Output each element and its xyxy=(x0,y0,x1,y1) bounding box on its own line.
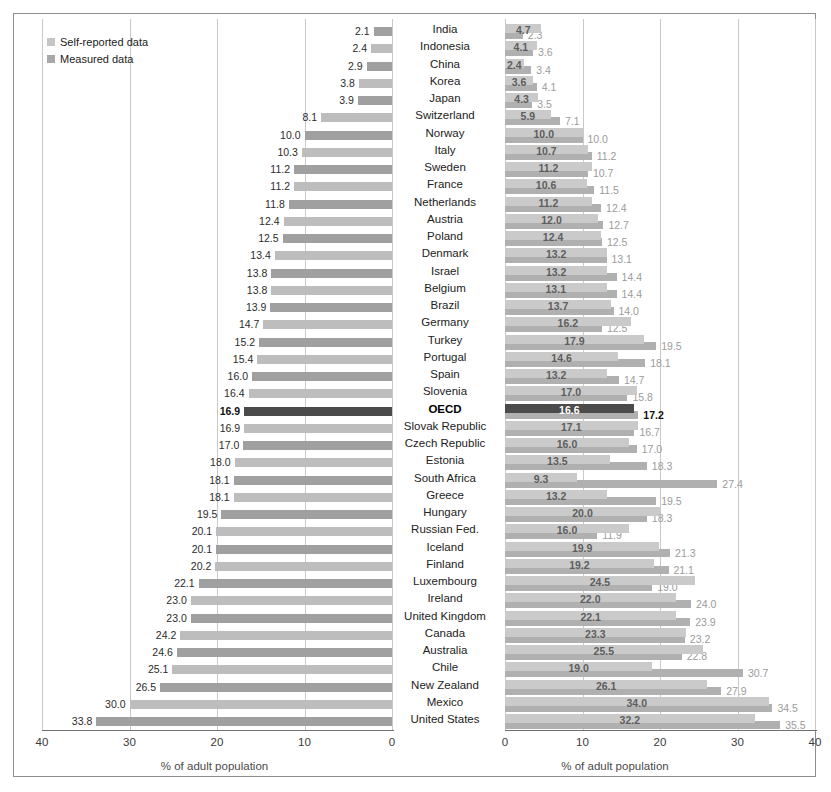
right-females-value-label: 3.6 xyxy=(506,77,532,88)
right-axis-title: % of adult population xyxy=(415,760,815,772)
left-chart-row: 13.8 xyxy=(14,265,415,284)
left-bar xyxy=(234,493,392,502)
left-chart-row: 18.1 xyxy=(14,472,415,491)
left-chart-row: 18.0 xyxy=(14,454,415,473)
right-females-value-label: 9.3 xyxy=(528,474,554,485)
right-females-value-label: 26.1 xyxy=(593,681,619,692)
left-bar xyxy=(289,200,392,209)
country-label: Japan xyxy=(385,89,505,108)
left-bar-value-label: 24.2 xyxy=(150,630,176,641)
left-bar-value-label: 20.1 xyxy=(186,526,212,537)
left-axis-ticks: 403020100 xyxy=(14,736,415,752)
left-bar-value-label: 12.4 xyxy=(254,216,280,227)
left-chart-row: 15.4 xyxy=(14,351,415,370)
left-bar-value-label: 16.9 xyxy=(214,406,240,417)
left-bar-value-label: 15.4 xyxy=(227,354,253,365)
right-females-value-label: 12.0 xyxy=(539,215,565,226)
left-chart-row: 17.0 xyxy=(14,437,415,456)
right-males-value-label: 35.5 xyxy=(785,720,805,731)
country-label: Slovak Republic xyxy=(385,417,505,436)
right-females-value-label: 32.2 xyxy=(617,715,643,726)
right-females-value-label: 25.5 xyxy=(591,646,617,657)
country-label: France xyxy=(385,175,505,194)
left-chart-row: 14.7 xyxy=(14,316,415,335)
left-chart-row: 12.5 xyxy=(14,230,415,249)
left-bar-value-label: 22.1 xyxy=(169,578,195,589)
left-chart-row: 16.0 xyxy=(14,368,415,387)
left-chart-row: 16.4 xyxy=(14,385,415,404)
country-label: Belgium xyxy=(385,279,505,298)
country-label: United Kingdom xyxy=(385,607,505,626)
left-chart-row: 10.0 xyxy=(14,127,415,146)
left-axis-tick: 0 xyxy=(389,736,395,748)
left-bar-value-label: 13.8 xyxy=(241,268,267,279)
left-bar-value-label: 16.4 xyxy=(219,388,245,399)
right-females-value-label: 11.2 xyxy=(535,163,561,174)
left-chart-row: 23.0 xyxy=(14,610,415,629)
left-chart-row: 8.1 xyxy=(14,109,415,128)
left-chart-row: 12.4 xyxy=(14,213,415,232)
country-label: Germany xyxy=(385,313,505,332)
left-bar-value-label: 16.0 xyxy=(222,371,248,382)
left-bar-value-label: 30.0 xyxy=(100,699,126,710)
legend-label-self-reported: Self-reported data xyxy=(60,36,148,48)
left-bar xyxy=(160,683,392,692)
left-bar xyxy=(96,717,392,726)
left-bar xyxy=(215,562,392,571)
left-bar-value-label: 15.2 xyxy=(229,337,255,348)
right-females-value-label: 13.1 xyxy=(543,284,569,295)
right-females-value-label: 4.3 xyxy=(509,94,535,105)
left-bar xyxy=(130,700,393,709)
left-bar xyxy=(271,286,392,295)
right-females-value-label: 11.2 xyxy=(535,198,561,209)
left-chart-row: 13.4 xyxy=(14,247,415,266)
right-females-value-label: 17.0 xyxy=(558,387,584,398)
left-bar-value-label: 18.1 xyxy=(204,475,230,486)
left-bar xyxy=(271,269,392,278)
left-bar-value-label: 24.6 xyxy=(147,647,173,658)
left-bar xyxy=(252,372,392,381)
country-label: Iceland xyxy=(385,538,505,557)
country-label: New Zealand xyxy=(385,676,505,695)
country-label: Brazil xyxy=(385,296,505,315)
right-females-value-label: 4.1 xyxy=(508,42,534,53)
left-bar xyxy=(216,545,392,554)
left-chart-row: 10.3 xyxy=(14,144,415,163)
country-label: Australia xyxy=(385,641,505,660)
country-label: Ireland xyxy=(385,589,505,608)
left-bar xyxy=(177,648,392,657)
left-chart-row: 11.2 xyxy=(14,178,415,197)
left-bar xyxy=(294,182,392,191)
left-bar xyxy=(305,131,393,140)
left-chart-legend: Self-reported data Measured data xyxy=(47,36,148,70)
country-label: Italy xyxy=(385,141,505,160)
left-plot-area: 2.12.42.93.83.98.110.010.311.211.211.812… xyxy=(14,19,415,729)
left-bar-value-label: 20.1 xyxy=(186,544,212,555)
left-chart-row: 3.9 xyxy=(14,92,415,111)
right-axis-tick: 20 xyxy=(654,736,667,748)
country-label: Turkey xyxy=(385,331,505,350)
left-bar xyxy=(263,320,392,329)
left-bar xyxy=(321,113,392,122)
left-bar-value-label: 12.5 xyxy=(253,233,279,244)
left-chart-row: 11.8 xyxy=(14,196,415,215)
right-axis-tick: 0 xyxy=(502,736,508,748)
left-chart-row: 30.0 xyxy=(14,696,415,715)
right-females-value-label: 23.3 xyxy=(582,629,608,640)
right-females-value-label: 10.0 xyxy=(531,129,557,140)
gridline xyxy=(815,19,816,730)
left-bar-value-label: 13.9 xyxy=(240,302,266,313)
legend-item-self-reported: Self-reported data xyxy=(47,36,148,48)
left-bar-value-label: 3.9 xyxy=(328,95,354,106)
country-label: Estonia xyxy=(385,451,505,470)
country-label: Poland xyxy=(385,227,505,246)
country-label: India xyxy=(385,20,505,39)
left-bar-value-label: 11.2 xyxy=(264,181,290,192)
country-label: Switzerland xyxy=(385,106,505,125)
left-bar-value-label: 10.0 xyxy=(275,130,301,141)
left-bar xyxy=(284,217,393,226)
left-bar xyxy=(283,234,392,243)
right-females-value-label: 16.0 xyxy=(554,525,580,536)
left-bar-value-label: 23.0 xyxy=(161,595,187,606)
country-label: OECD xyxy=(385,400,505,419)
